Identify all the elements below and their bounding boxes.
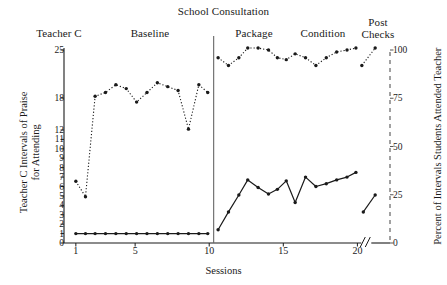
series-1-segment-1-point-1[interactable] [227,210,230,213]
series-1-segment-0-point-9[interactable] [166,232,169,235]
series-1-segment-1-point-10[interactable] [314,185,317,188]
series-1-segment-2-line [363,195,375,212]
series-0-segment-0-point-10[interactable] [176,89,179,92]
chart-figure: School Consultation Teacher C Baseline P… [0,0,447,285]
series-1-segment-1-point-13[interactable] [345,175,348,178]
series-1-segment-0-point-4[interactable] [114,232,117,235]
series-0-segment-0-point-0[interactable] [74,180,77,183]
series-0-segment-0-point-3[interactable] [104,91,107,94]
series-1-segment-1-point-8[interactable] [293,201,296,204]
axis-break-mark-1 [360,237,365,247]
series-0-segment-1-point-12[interactable] [335,50,338,53]
series-1-segment-0-point-8[interactable] [156,232,159,235]
series-0-segment-1-point-11[interactable] [325,56,328,59]
series-1-segment-1-point-2[interactable] [237,193,240,196]
series-0-segment-0-point-6[interactable] [135,100,138,103]
plot-area [0,0,447,285]
series-1-segment-1-point-9[interactable] [304,175,307,178]
series-0-segment-0-point-1[interactable] [84,195,87,198]
series-1-segment-1-point-14[interactable] [354,171,357,174]
series-0-segment-2-point-0[interactable] [360,64,363,67]
series-0-segment-1-point-2[interactable] [237,56,240,59]
series-1-segment-2-point-0[interactable] [362,210,365,213]
series-0-segment-1-point-6[interactable] [276,56,279,59]
axis-break-mark-2 [365,237,370,247]
series-1-segment-0-point-1[interactable] [84,232,87,235]
series-1-segment-1-point-5[interactable] [267,192,270,195]
series-0-segment-1-point-1[interactable] [227,64,230,67]
series-0-segment-1-point-13[interactable] [345,48,348,51]
series-0-segment-0-point-9[interactable] [166,85,169,88]
series-0-segment-0-point-13[interactable] [206,91,209,94]
series-0-segment-1-point-9[interactable] [304,56,307,59]
series-1-segment-0-point-10[interactable] [176,232,179,235]
series-1-segment-0-point-0[interactable] [74,232,77,235]
series-0-segment-1-point-14[interactable] [354,46,357,49]
series-0-segment-1-point-3[interactable] [246,46,249,49]
series-1-segment-1-point-0[interactable] [216,228,219,231]
series-1-segment-0-point-11[interactable] [187,232,190,235]
series-0-segment-1-point-0[interactable] [216,56,219,59]
series-0-segment-0-point-4[interactable] [114,83,117,86]
series-1-segment-2-point-1[interactable] [373,193,376,196]
series-1-segment-0-point-2[interactable] [93,232,96,235]
series-0-segment-1-point-10[interactable] [314,64,317,67]
series-0-segment-0-point-12[interactable] [197,83,200,86]
series-0-segment-0-point-8[interactable] [156,81,159,84]
series-0-segment-0-line [76,83,208,197]
series-1-segment-0-point-5[interactable] [125,232,128,235]
series-1-segment-0-point-3[interactable] [104,232,107,235]
series-1-segment-0-point-6[interactable] [135,232,138,235]
series-1-segment-1-point-11[interactable] [325,182,328,185]
series-0-segment-0-point-2[interactable] [93,95,96,98]
series-0-segment-0-point-7[interactable] [145,91,148,94]
series-1-segment-1-point-7[interactable] [285,179,288,182]
series-1-segment-1-point-6[interactable] [276,188,279,191]
series-0-segment-1-point-7[interactable] [285,58,288,61]
series-0-segment-2-point-1[interactable] [373,46,376,49]
series-0-segment-0-point-11[interactable] [187,127,190,130]
series-1-segment-1-point-4[interactable] [256,186,259,189]
series-1-segment-0-point-12[interactable] [197,232,200,235]
series-0-segment-1-point-4[interactable] [256,46,259,49]
series-0-segment-2-line [362,48,375,65]
series-1-segment-1-point-3[interactable] [246,178,249,181]
series-0-segment-0-point-5[interactable] [125,87,128,90]
series-0-segment-1-point-8[interactable] [293,52,296,55]
series-1-segment-0-point-13[interactable] [206,232,209,235]
series-1-segment-1-point-12[interactable] [335,178,338,181]
series-1-segment-0-point-7[interactable] [145,232,148,235]
series-0-segment-1-point-5[interactable] [267,48,270,51]
